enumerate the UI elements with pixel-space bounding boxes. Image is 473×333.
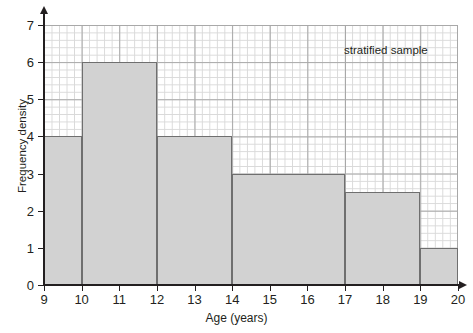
y-axis-title: Frequency density — [16, 76, 28, 216]
chart-annotation: stratified sample — [344, 44, 428, 56]
y-tick-mark — [38, 174, 44, 175]
histogram-bar — [420, 248, 458, 285]
x-axis-title: Age (years) — [0, 311, 473, 325]
x-tick-label: 10 — [67, 293, 97, 306]
x-tick-mark — [420, 286, 421, 291]
x-tick-mark — [458, 286, 459, 291]
y-axis-line — [43, 12, 45, 286]
x-tick-label: 16 — [292, 293, 322, 306]
plot-area — [44, 25, 458, 285]
y-tick-mark — [38, 62, 44, 63]
x-tick-label: 11 — [104, 293, 134, 306]
x-tick-label: 15 — [255, 293, 285, 306]
histogram-bar — [82, 62, 157, 285]
x-tick-label: 9 — [29, 293, 59, 306]
x-tick-label: 17 — [330, 293, 360, 306]
x-tick-mark — [270, 286, 271, 291]
y-tick-label: 7 — [4, 19, 34, 32]
histogram-chart: 01234567 91011121314151617181920 Frequen… — [0, 0, 473, 333]
x-tick-mark — [307, 286, 308, 291]
x-axis-arrow-icon — [459, 281, 467, 289]
bars-layer — [44, 25, 458, 285]
y-tick-mark — [38, 136, 44, 137]
x-tick-mark — [195, 286, 196, 291]
y-tick-label: 0 — [4, 279, 34, 292]
histogram-bar — [345, 192, 420, 285]
x-tick-mark — [82, 286, 83, 291]
x-tick-mark — [157, 286, 158, 291]
x-tick-label: 13 — [180, 293, 210, 306]
x-tick-mark — [119, 286, 120, 291]
x-tick-label: 12 — [142, 293, 172, 306]
y-tick-mark — [38, 211, 44, 212]
x-tick-label: 18 — [368, 293, 398, 306]
x-tick-mark — [232, 286, 233, 291]
y-tick-label: 6 — [4, 56, 34, 69]
x-tick-mark — [44, 286, 45, 291]
y-axis-arrow-icon — [40, 6, 48, 14]
y-tick-label: 1 — [4, 242, 34, 255]
histogram-bar — [157, 136, 232, 285]
histogram-bar — [232, 174, 345, 285]
y-tick-mark — [38, 25, 44, 26]
x-axis-line — [43, 284, 460, 286]
x-tick-label: 19 — [405, 293, 435, 306]
histogram-bar — [44, 136, 82, 285]
x-tick-label: 20 — [443, 293, 473, 306]
y-tick-mark — [38, 99, 44, 100]
x-tick-mark — [383, 286, 384, 291]
x-tick-label: 14 — [217, 293, 247, 306]
y-tick-mark — [38, 248, 44, 249]
x-tick-mark — [345, 286, 346, 291]
